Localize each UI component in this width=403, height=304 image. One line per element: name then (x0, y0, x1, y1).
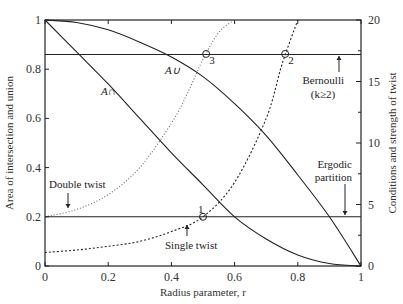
y-left-tick-label: 0.2 (26, 210, 41, 224)
marker-label-2: 2 (288, 54, 294, 66)
y-right-tick-label: 0 (368, 259, 374, 273)
label-ergodic: Ergodic (317, 158, 352, 170)
y-left-tick-label: 0.8 (26, 62, 41, 76)
label-partition: partition (315, 171, 353, 183)
series-a-line (45, 20, 361, 266)
y-right-axis-label: Conditions and strength of twist (386, 72, 398, 213)
y-right-tick-label: 15 (368, 75, 380, 89)
x-tick-label: 0 (42, 270, 48, 284)
y-right-tick-label: 10 (368, 136, 380, 150)
bernoulli-arrow-head (337, 56, 342, 60)
label-bernoulli-k: (k≥2) (311, 88, 336, 101)
label-bernoulli: Bernoulli (302, 74, 344, 86)
plot-frame (45, 20, 361, 266)
ergodic-arrow-head (343, 211, 348, 215)
marker-label-3: 3 (209, 54, 215, 66)
label-a-intersection: A∩ (100, 85, 116, 97)
x-tick-label: 0.2 (101, 270, 116, 284)
marker-label-1: 1 (198, 203, 204, 215)
label-double-twist: Double twist (49, 178, 106, 190)
y-left-tick-label: 0.6 (26, 111, 41, 125)
x-tick-label: 0.8 (290, 270, 305, 284)
y-left-tick-label: 1 (35, 13, 41, 27)
chart: 00.20.40.60.8100.20.40.60.8105101520123 … (0, 0, 403, 304)
double-twist-arrow-head (66, 204, 71, 208)
label-a-union: A∪ (164, 64, 181, 76)
y-left-tick-label: 0.4 (26, 161, 41, 175)
y-right-tick-label: 20 (368, 13, 380, 27)
series-a-line (45, 20, 361, 266)
label-single-twist: Single twist (165, 239, 217, 251)
y-left-axis-label: Area of intersection and union (3, 76, 15, 210)
y-right-tick-label: 5 (368, 198, 374, 212)
y-left-tick-label: 0 (35, 259, 41, 273)
x-tick-label: 0.4 (164, 270, 179, 284)
x-tick-label: 1 (358, 270, 364, 284)
x-tick-label: 0.6 (227, 270, 242, 284)
single-twist-arrow-head (185, 225, 190, 229)
x-axis-label: Radius parameter, r (160, 286, 246, 298)
